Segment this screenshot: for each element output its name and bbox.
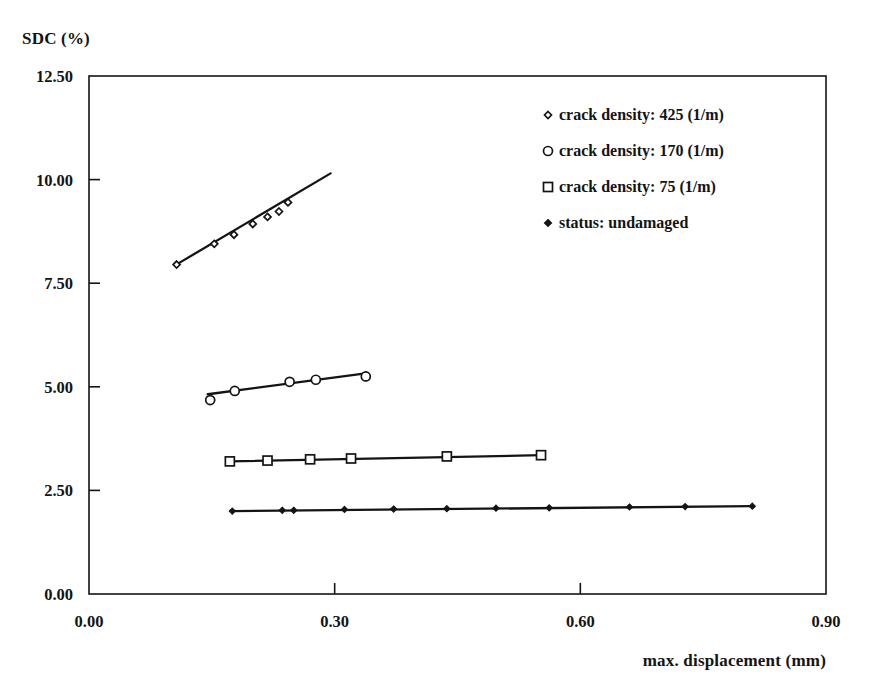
y-axis-tick-label: 0.00 — [44, 585, 73, 604]
y-axis-tick-label: 12.50 — [36, 67, 73, 86]
data-point-marker — [749, 503, 755, 509]
legend-item-label: crack density: 425 (1/m) — [559, 106, 724, 124]
series-3 — [225, 451, 545, 466]
data-point-marker — [230, 386, 239, 395]
legend-item-label: crack density: 170 (1/m) — [559, 142, 724, 160]
data-point-marker — [544, 183, 553, 192]
data-point-marker — [544, 147, 553, 156]
chart-figure: 0.002.505.007.5010.0012.500.000.300.600.… — [0, 0, 879, 675]
x-axis-tick-label: 0.60 — [566, 612, 595, 631]
legend-item: status: undamaged — [545, 214, 689, 232]
data-point-marker — [264, 213, 271, 220]
data-point-marker — [206, 396, 215, 405]
series-2 — [206, 372, 371, 405]
data-point-marker — [347, 454, 356, 463]
legend-item: crack density: 170 (1/m) — [544, 142, 724, 160]
data-point-marker — [229, 508, 235, 514]
data-point-marker — [263, 456, 272, 465]
data-point-marker — [285, 377, 294, 386]
data-point-marker — [442, 452, 451, 461]
data-point-marker — [444, 506, 450, 512]
data-point-marker — [279, 507, 285, 513]
x-axis-title: max. displacement (mm) — [643, 651, 826, 670]
data-point-marker — [493, 505, 499, 511]
data-point-marker — [306, 455, 315, 464]
y-axis-tick-label: 5.00 — [44, 378, 73, 397]
y-axis-tick-label: 10.00 — [36, 171, 73, 190]
x-axis-tick-label: 0.30 — [320, 612, 349, 631]
legend: crack density: 425 (1/m)crack density: 1… — [544, 106, 724, 232]
series-4 — [229, 503, 755, 514]
legend-item-label: status: undamaged — [559, 214, 688, 232]
data-point-marker — [291, 507, 297, 513]
data-point-marker — [225, 457, 234, 466]
y-axis-tick-label: 7.50 — [44, 274, 73, 293]
legend-item: crack density: 75 (1/m) — [544, 178, 716, 196]
data-point-marker — [546, 505, 552, 511]
x-axis-tick-label: 0.90 — [812, 612, 841, 631]
y-axis-title: SDC (%) — [22, 29, 90, 48]
series-trendline — [230, 455, 541, 461]
data-point-marker — [311, 375, 320, 384]
data-point-marker — [682, 504, 688, 510]
series-trendline — [232, 506, 752, 511]
data-point-marker — [275, 208, 282, 215]
y-axis-tick-label: 2.50 — [44, 481, 73, 500]
legend-item: crack density: 425 (1/m) — [545, 106, 724, 124]
legend-item-label: crack density: 75 (1/m) — [559, 178, 716, 196]
data-point-marker — [537, 451, 546, 460]
data-point-marker — [545, 112, 552, 119]
data-point-marker — [361, 372, 370, 381]
sdc-vs-displacement-chart: 0.002.505.007.5010.0012.500.000.300.600.… — [0, 0, 879, 675]
data-point-marker — [545, 220, 552, 227]
data-point-marker — [341, 506, 347, 512]
series-1 — [173, 173, 330, 268]
data-point-marker — [626, 504, 632, 510]
data-point-marker — [391, 506, 397, 512]
x-axis-tick-label: 0.00 — [75, 612, 104, 631]
